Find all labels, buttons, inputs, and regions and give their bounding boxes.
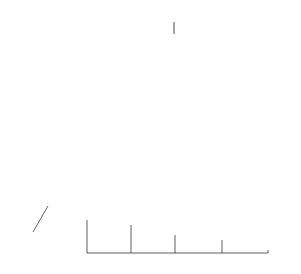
cin-epithelium-diagram [0, 0, 301, 274]
epithelium-illustration [11, 93, 289, 210]
microinvasive-bracket [87, 220, 268, 253]
